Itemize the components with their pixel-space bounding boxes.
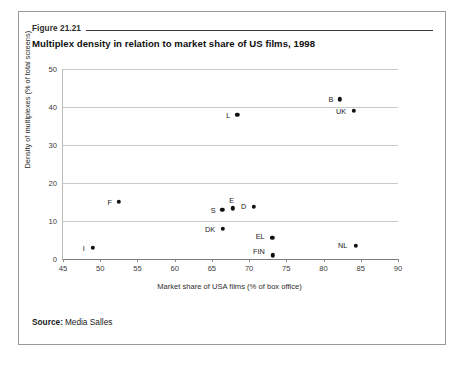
y-tick-label-30: 30 <box>49 141 57 150</box>
x-tick-60 <box>175 259 176 262</box>
x-tick-label-80: 80 <box>319 264 327 273</box>
y-tick-label-20: 20 <box>49 179 57 188</box>
source-label: Source: <box>32 317 63 327</box>
y-tick-label-40: 40 <box>49 103 57 112</box>
y-tick-label-10: 10 <box>49 217 57 226</box>
figure-title: Multiplex density in relation to market … <box>32 38 433 49</box>
data-point-I <box>91 245 95 249</box>
x-tick-label-75: 75 <box>282 264 290 273</box>
data-point-label-E: E <box>229 196 234 205</box>
data-point-B <box>338 97 342 101</box>
x-tick-65 <box>212 259 213 262</box>
data-point-S <box>220 207 224 211</box>
data-point-label-FIN: FIN <box>253 247 265 256</box>
data-point-EL <box>270 236 274 240</box>
y-tick-label-50: 50 <box>49 65 57 74</box>
x-tick-label-70: 70 <box>245 264 253 273</box>
gridline-y-20 <box>63 183 398 184</box>
y-tick-label-0: 0 <box>53 255 57 264</box>
x-tick-label-55: 55 <box>133 264 141 273</box>
x-tick-80 <box>324 259 325 262</box>
gridline-y-10 <box>63 221 398 222</box>
data-point-DK <box>221 226 225 230</box>
x-tick-label-65: 65 <box>208 264 216 273</box>
data-point-label-NL: NL <box>338 240 347 249</box>
data-point-label-B: B <box>328 95 333 104</box>
gridline-y-40 <box>63 107 398 108</box>
data-point-label-UK: UK <box>336 106 346 115</box>
plot-frame: 01020304050 45505560657075808590 IFSDKEL… <box>62 69 398 260</box>
data-point-FIN <box>271 253 275 257</box>
x-tick-label-45: 45 <box>59 264 67 273</box>
figure-number-rule <box>86 30 433 31</box>
scatter-chart: Density of multiplexes (% of total scree… <box>19 60 447 308</box>
x-tick-label-90: 90 <box>394 264 402 273</box>
figure-number: Figure 21.21 <box>32 24 86 33</box>
figure-number-row: Figure 21.21 <box>32 21 433 35</box>
data-point-label-EL: EL <box>256 232 265 241</box>
x-tick-90 <box>398 259 399 262</box>
data-point-NL <box>353 243 357 247</box>
data-point-UK <box>352 109 356 113</box>
x-tick-label-60: 60 <box>170 264 178 273</box>
data-point-E <box>231 206 235 210</box>
x-tick-50 <box>100 259 101 262</box>
figure-card: Figure 21.21 Multiplex density in relati… <box>18 11 446 345</box>
x-tick-45 <box>63 259 64 262</box>
source-value: Media Salles <box>63 317 113 327</box>
x-tick-55 <box>137 259 138 262</box>
data-point-label-L: L <box>226 110 230 119</box>
data-point-F <box>117 200 121 204</box>
x-tick-70 <box>249 259 250 262</box>
source-line: Source:Media Salles <box>32 317 112 327</box>
x-tick-label-85: 85 <box>357 264 365 273</box>
gridline-y-0 <box>63 259 398 260</box>
x-tick-85 <box>361 259 362 262</box>
data-point-L <box>235 112 239 116</box>
x-tick-75 <box>286 259 287 262</box>
data-point-D <box>251 204 255 208</box>
x-axis-title: Market share of USA films (% of box offi… <box>62 282 397 291</box>
y-axis-title: Density of multiplexes (% of total scree… <box>23 31 32 169</box>
data-point-label-D: D <box>241 201 246 210</box>
data-point-label-F: F <box>108 198 112 207</box>
gridline-y-30 <box>63 145 398 146</box>
data-point-label-DK: DK <box>205 224 215 233</box>
gridline-y-50 <box>63 69 398 70</box>
data-point-label-S: S <box>211 205 216 214</box>
x-tick-label-50: 50 <box>96 264 104 273</box>
data-point-label-I: I <box>83 243 85 252</box>
